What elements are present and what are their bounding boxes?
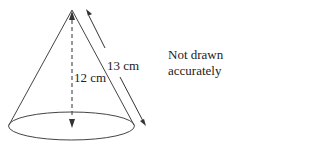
- note-line-2: accurately: [168, 63, 238, 79]
- slant-height-label: 13 cm: [107, 58, 139, 73]
- note-line-1: Not drawn: [168, 47, 238, 63]
- not-to-scale-note: Not drawn accurately: [168, 47, 238, 79]
- height-label: 12 cm: [74, 70, 106, 85]
